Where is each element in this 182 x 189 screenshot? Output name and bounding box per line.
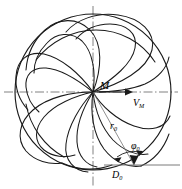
angle-arc-group [114, 151, 143, 163]
blade-curve-10 [26, 104, 64, 157]
blade-curve-11 [62, 163, 112, 169]
blade-curve-5 [66, 92, 93, 172]
label-angle-phi0: φ0 [131, 141, 140, 151]
blade-curve-7 [93, 92, 170, 129]
velocity-arrowhead-icon [125, 89, 133, 96]
blade-curve-3-inner [26, 68, 93, 112]
label-diameter-d0: D0 [112, 170, 122, 180]
impeller-diagram-figure: M VM r0 φ0 D0 [0, 0, 182, 189]
diagram-canvas [0, 0, 182, 189]
label-center-point-m: M [100, 80, 109, 91]
label-velocity-vm: VM [133, 98, 144, 108]
blade-curve-5-inner [77, 92, 97, 167]
label-radius-r0: r0 [110, 121, 117, 131]
